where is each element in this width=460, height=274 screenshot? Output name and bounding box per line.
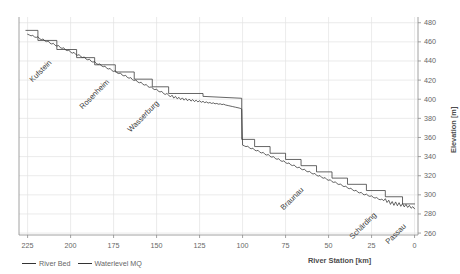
y-axis-label: Elevation [m] xyxy=(449,107,458,153)
x-tick-label: 225 xyxy=(14,241,42,250)
grid-lines xyxy=(19,17,418,235)
river-profile-chart: 4804604404204003803603403203002802602252… xyxy=(0,0,460,274)
y-tick-label: 280 xyxy=(424,209,436,218)
y-tick-label: 300 xyxy=(424,190,436,199)
data-series-layer xyxy=(26,30,415,208)
x-tick-label: 25 xyxy=(358,241,386,250)
y-tick-label: 360 xyxy=(424,133,436,142)
x-tick-label: 125 xyxy=(186,241,214,250)
series-line-waterlevel-mq xyxy=(26,30,415,204)
x-tick-label: 0 xyxy=(401,241,429,250)
legend-item-river-bed: River Bed xyxy=(22,259,71,268)
y-tick-label: 420 xyxy=(424,76,436,85)
y-tick-label: 320 xyxy=(424,171,436,180)
axis-lines xyxy=(19,17,418,235)
y-tick-label: 460 xyxy=(424,37,436,46)
y-tick-label: 380 xyxy=(424,114,436,123)
y-tick-label: 260 xyxy=(424,229,436,238)
y-tick-label: 480 xyxy=(424,18,436,27)
legend-label-waterlevel: Waterlevel MQ xyxy=(95,259,142,268)
x-axis-label: River Station [km] xyxy=(308,256,371,265)
x-tick-label: 200 xyxy=(57,241,85,250)
series-line-river-bed xyxy=(28,34,415,209)
x-tick-label: 50 xyxy=(315,241,343,250)
y-tick-label: 340 xyxy=(424,152,436,161)
legend-line-icon xyxy=(78,263,92,264)
y-tick-label: 400 xyxy=(424,95,436,104)
chart-legend: River Bed Waterlevel MQ xyxy=(22,259,142,268)
axis-ticks xyxy=(28,23,421,238)
x-tick-label: 175 xyxy=(100,241,128,250)
y-tick-label: 440 xyxy=(424,56,436,65)
legend-item-waterlevel: Waterlevel MQ xyxy=(78,259,142,268)
legend-line-icon xyxy=(22,263,36,264)
legend-label-river-bed: River Bed xyxy=(39,259,71,268)
x-tick-label: 100 xyxy=(229,241,257,250)
x-tick-label: 75 xyxy=(272,241,300,250)
x-tick-label: 150 xyxy=(143,241,171,250)
